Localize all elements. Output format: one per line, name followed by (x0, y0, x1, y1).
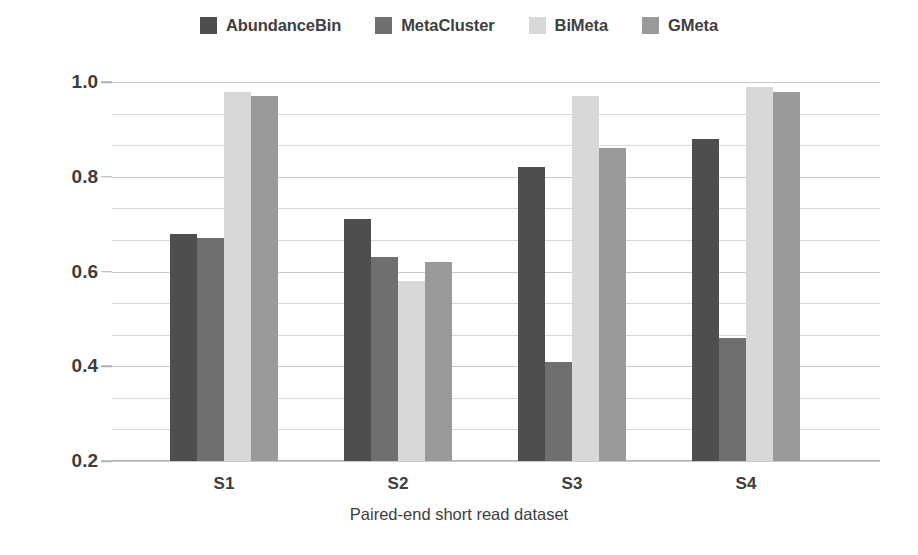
y-tick-mark (101, 81, 112, 83)
bar-group (170, 82, 278, 461)
bar (371, 257, 398, 461)
bar (719, 338, 746, 461)
legend-label: MetaCluster (401, 16, 494, 35)
y-tick-label: 0.8 (38, 166, 98, 188)
bar (344, 219, 371, 461)
bar (425, 262, 452, 461)
legend-label: GMeta (668, 16, 718, 35)
bar (746, 87, 773, 461)
y-tick-label: 0.6 (38, 261, 98, 283)
plot-area: 0.20.40.60.81.0S1S2S3S4 (112, 82, 880, 461)
bar-group (692, 82, 800, 461)
gridline-major (112, 461, 880, 462)
bar (599, 148, 626, 461)
x-tick-label: S4 (736, 474, 757, 494)
y-tick-mark (101, 460, 112, 462)
bar-group (344, 82, 452, 461)
legend-item: MetaCluster (375, 16, 494, 35)
y-tick-mark (101, 271, 112, 273)
x-axis-title: Paired-end short read dataset (0, 505, 918, 524)
bar (572, 96, 599, 461)
legend-item: AbundanceBin (200, 16, 341, 35)
bar-chart: AbundanceBinMetaClusterBiMetaGMeta 0.20.… (0, 0, 918, 555)
y-tick-mark (101, 366, 112, 368)
legend-item: GMeta (642, 16, 718, 35)
bar (545, 362, 572, 462)
bar (773, 92, 800, 462)
y-tick-mark (101, 176, 112, 178)
legend-swatch-icon (200, 17, 217, 34)
x-tick-label: S1 (214, 474, 235, 494)
bar (251, 96, 278, 461)
bar (518, 167, 545, 461)
chart-legend: AbundanceBinMetaClusterBiMetaGMeta (0, 16, 918, 35)
legend-swatch-icon (642, 17, 659, 34)
x-tick-label: S2 (388, 474, 409, 494)
y-tick-label: 0.4 (38, 355, 98, 377)
bar (692, 139, 719, 461)
legend-swatch-icon (375, 17, 392, 34)
legend-label: AbundanceBin (226, 16, 341, 35)
legend-swatch-icon (529, 17, 546, 34)
legend-label: BiMeta (555, 16, 609, 35)
y-tick-label: 1.0 (38, 71, 98, 93)
y-tick-label: 0.2 (38, 450, 98, 472)
bar (197, 238, 224, 461)
x-tick-label: S3 (562, 474, 583, 494)
bar (398, 281, 425, 461)
bar-group (518, 82, 626, 461)
legend-item: BiMeta (529, 16, 609, 35)
bar (170, 234, 197, 461)
bar (224, 92, 251, 462)
